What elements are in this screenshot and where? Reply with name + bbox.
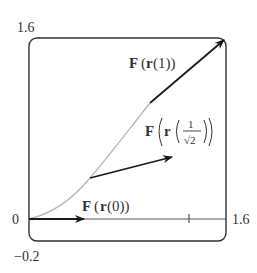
label-f-r-inv-sqrt2: F r 1 √2 <box>145 118 212 146</box>
svg-text:F: F <box>82 198 91 214</box>
label-f-r0: F ( r (0)) <box>82 198 130 215</box>
svg-text:F: F <box>145 123 154 139</box>
svg-text:(1)): (1)) <box>153 55 176 72</box>
y-min-label: −0.2 <box>14 249 39 264</box>
vector-field-diagram: 1.6 −0.2 0 1.6 F ( r (0)) F ( r (1)) F r… <box>0 0 257 273</box>
svg-text:F: F <box>129 55 138 71</box>
svg-text:(0)): (0)) <box>107 198 130 215</box>
svg-text:√2: √2 <box>184 134 196 146</box>
y-max-label: 1.6 <box>17 20 35 35</box>
svg-text:r: r <box>164 123 171 139</box>
x-min-label: 0 <box>12 212 19 227</box>
vector-f-r-inv-sqrt2 <box>90 157 172 178</box>
svg-text:r: r <box>100 198 107 214</box>
vector-f-r1 <box>150 40 224 103</box>
svg-text:1: 1 <box>188 118 194 130</box>
x-max-label: 1.6 <box>232 212 250 227</box>
label-f-r1: F ( r (1)) <box>129 55 176 72</box>
svg-text:(: ( <box>94 198 99 215</box>
svg-text:r: r <box>146 55 153 71</box>
